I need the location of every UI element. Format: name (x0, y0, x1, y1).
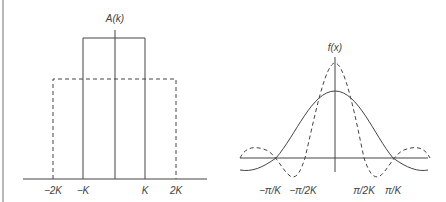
right-x-tick-2: π/2K (353, 185, 376, 196)
right-panel (240, 57, 430, 177)
figure: A(k) −2K −K K 2K f(x) −π/K −π/2K π/2K π/… (0, 0, 446, 202)
left-x-tick-2: K (142, 185, 150, 196)
left-y-label: A(k) (105, 13, 124, 24)
right-x-tick-0: −π/K (259, 185, 282, 196)
left-x-tick-3: 2K (169, 185, 184, 196)
left-x-tick-0: −2K (44, 185, 63, 196)
right-x-tick-3: π/K (385, 185, 402, 196)
sinc-wide-solid (240, 91, 428, 171)
narrow-box-solid (83, 38, 145, 179)
left-panel (23, 30, 207, 179)
left-x-tick-1: −K (77, 185, 91, 196)
right-y-label: f(x) (328, 42, 342, 53)
right-x-tick-1: −π/2K (289, 185, 318, 196)
